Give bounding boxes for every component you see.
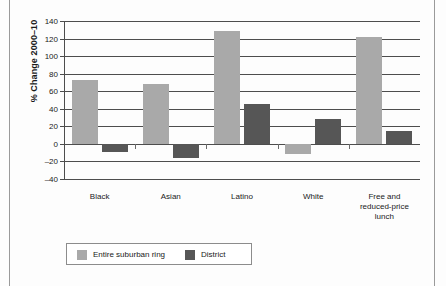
y-tick-label-0: 0 bbox=[30, 139, 58, 148]
bar-chart-figure: % Change 2000–10 140120100806040200–20–4… bbox=[0, 0, 446, 286]
chart-page: % Change 2000–10 140120100806040200–20–4… bbox=[0, 0, 446, 286]
category-label-line: Free and bbox=[349, 192, 420, 202]
category-label-1: Asian bbox=[135, 192, 206, 202]
bar-suburban-ring-1 bbox=[143, 84, 169, 144]
category-label-2: Latino bbox=[206, 192, 277, 202]
legend-label: Entire suburban ring bbox=[93, 250, 165, 259]
bar-suburban-ring-2 bbox=[214, 31, 240, 144]
x-tick-3 bbox=[278, 144, 279, 149]
category-label-line: reduced-price bbox=[349, 202, 420, 212]
bar-suburban-ring-3 bbox=[285, 144, 311, 155]
x-tick-1 bbox=[135, 144, 136, 149]
category-label-line: lunch bbox=[349, 212, 420, 222]
bar-district-4 bbox=[386, 131, 412, 144]
y-tick-label-80: 80 bbox=[30, 69, 58, 78]
chart-legend: Entire suburban ringDistrict bbox=[66, 243, 252, 265]
gridline--20 bbox=[64, 161, 420, 162]
legend-item-suburban-ring[interactable]: Entire suburban ring bbox=[77, 249, 165, 260]
bar-suburban-ring-4 bbox=[356, 37, 382, 144]
x-tick-4 bbox=[349, 144, 350, 149]
category-label-line: White bbox=[278, 192, 349, 202]
bar-district-1 bbox=[173, 144, 199, 158]
legend-swatch-suburban-ring bbox=[77, 250, 87, 260]
category-label-3: White bbox=[278, 192, 349, 202]
category-label-4: Free andreduced-pricelunch bbox=[349, 192, 420, 222]
category-label-0: Black bbox=[64, 192, 135, 202]
y-tick-label--40: –40 bbox=[30, 175, 58, 184]
x-tick-2 bbox=[206, 144, 207, 149]
y-axis-tick-labels: 140120100806040200–20–40 bbox=[28, 21, 58, 179]
category-label-line: Asian bbox=[135, 192, 206, 202]
bar-district-3 bbox=[315, 119, 341, 144]
bar-district-0 bbox=[102, 144, 128, 152]
y-tick-label-20: 20 bbox=[30, 122, 58, 131]
y-tick-label-60: 60 bbox=[30, 87, 58, 96]
y-tick-label-120: 120 bbox=[30, 34, 58, 43]
y-tick-label-40: 40 bbox=[30, 104, 58, 113]
bar-suburban-ring-0 bbox=[72, 80, 98, 144]
category-label-line: Latino bbox=[206, 192, 277, 202]
gridline--40 bbox=[64, 179, 420, 180]
y-tick-label-100: 100 bbox=[30, 52, 58, 61]
legend-item-district[interactable]: District bbox=[185, 249, 225, 260]
legend-label: District bbox=[201, 250, 225, 259]
x-axis-category-labels: BlackAsianLatinoWhiteFree andreduced-pri… bbox=[64, 192, 420, 236]
y-tick-label-140: 140 bbox=[30, 17, 58, 26]
bar-district-2 bbox=[244, 104, 270, 144]
legend-swatch-district bbox=[185, 250, 195, 260]
gridline-140 bbox=[64, 21, 420, 22]
category-label-line: Black bbox=[64, 192, 135, 202]
y-tick-label--20: –20 bbox=[30, 157, 58, 166]
plot-area bbox=[64, 21, 420, 179]
